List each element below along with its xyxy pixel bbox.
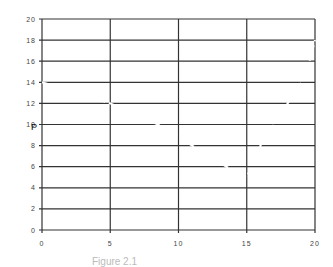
y-tick-label: 0 [31,227,36,234]
x-axis-tick-labels: 05101520 [40,240,320,247]
y-tick-label: 18 [26,37,36,44]
x-tick-label: 15 [242,240,252,247]
y-tick-label: 4 [31,184,36,191]
y-tick-label: 20 [26,16,36,23]
y-tick-label: 14 [26,79,36,86]
x-tick-label: 20 [310,240,320,247]
y-axis-label: P [31,122,37,132]
y-tick-label: 2 [31,205,36,212]
y-tick-label: 16 [26,58,36,65]
y-tick-label: 12 [26,100,36,107]
y-tick-label: 8 [31,142,36,149]
y-tick-label: 6 [31,163,36,170]
x-tick-label: 5 [108,240,113,247]
x-tick-label: 0 [40,240,45,247]
figure-caption: Figure 2.1 [92,256,137,267]
x-tick-label: 10 [174,240,184,247]
